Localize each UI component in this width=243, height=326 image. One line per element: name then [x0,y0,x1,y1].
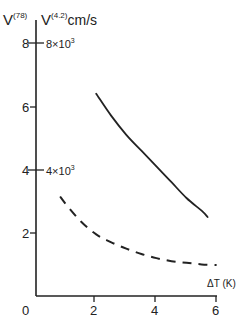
origin-label: 0 [22,303,29,318]
x-axis-title: ΔT (K) [207,278,236,289]
y-right-title: V(4.2)cm/s [41,11,97,28]
y-tick-label-8: 8 [22,36,29,51]
series-v42-solid-line [96,94,207,217]
series-v78-dashed-line [60,197,217,266]
y-tick-label-6: 6 [22,100,29,115]
y-left-title: V(78) [3,11,28,28]
y-right-tick-label-8: 8×103 [46,37,75,50]
x-tick-label-2: 2 [90,303,97,318]
x-tick-label-6: 6 [212,303,219,318]
y-tick-label-4: 4 [22,163,29,178]
chart: V(78) V(4.2)cm/s 8 6 4 2 8×103 4×103 0 2… [0,0,243,326]
x-tick-label-4: 4 [151,303,158,318]
y-tick-label-2: 2 [22,226,29,241]
y-right-tick-label-4: 4×103 [46,164,75,177]
